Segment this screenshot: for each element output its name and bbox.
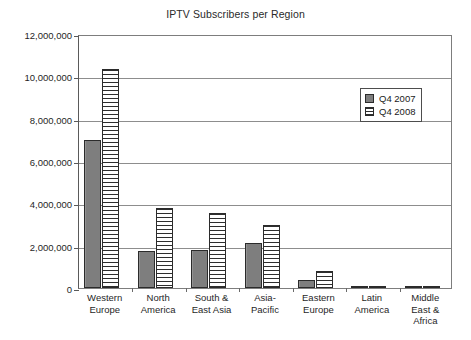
legend-label-q4-2007: Q4 2007: [379, 93, 415, 104]
bar-q4-2007: [405, 286, 422, 288]
bar-q4-2008: [102, 69, 119, 288]
x-axis-label-line: Pacific: [238, 304, 291, 316]
bar-q4-2007: [245, 243, 262, 289]
bar-q4-2007: [84, 140, 101, 288]
legend-label-q4-2008: Q4 2008: [379, 106, 415, 117]
bar-q4-2008: [369, 286, 386, 288]
x-axis-category-labels: WesternEuropeNorthAmericaSouth &East Asi…: [78, 292, 452, 338]
y-axis-tick-label: 2,000,000: [2, 241, 72, 252]
bars-layer: [79, 36, 451, 288]
x-axis-label: NorthAmerica: [131, 292, 184, 315]
x-axis-label: Asia-Pacific: [238, 292, 291, 315]
legend-item-q4-2008: Q4 2008: [365, 105, 415, 118]
bar-q4-2007: [138, 251, 155, 288]
iptv-subscribers-bar-chart: IPTV Subscribers per Region 02,000,0004,…: [0, 0, 471, 340]
y-axis-tick-label: 10,000,000: [2, 72, 72, 83]
x-axis-label-line: East &: [399, 304, 452, 316]
bar-q4-2008: [156, 208, 173, 288]
x-axis-label-line: America: [131, 304, 184, 316]
x-axis-label-line: South &: [185, 292, 238, 304]
x-axis-label: WesternEurope: [78, 292, 131, 315]
y-axis-tick: [74, 290, 79, 291]
bar-q4-2008: [423, 286, 440, 288]
x-axis-label: MiddleEast &Africa: [399, 292, 452, 327]
x-axis-label-line: Eastern: [292, 292, 345, 304]
x-axis-label-line: Asia-: [238, 292, 291, 304]
chart-legend: Q4 2007 Q4 2008: [360, 88, 422, 122]
bar-q4-2007: [351, 286, 368, 288]
x-axis-label-line: Western: [78, 292, 131, 304]
x-axis-label-line: Europe: [78, 304, 131, 316]
bar-q4-2007: [191, 250, 208, 288]
legend-swatch-solid-icon: [365, 94, 374, 103]
x-axis-label-line: Middle: [399, 292, 452, 304]
x-axis-label-line: Africa: [399, 315, 452, 327]
x-axis-label-line: East Asia: [185, 304, 238, 316]
y-axis-tick-label: 6,000,000: [2, 157, 72, 168]
legend-swatch-striped-icon: [365, 107, 374, 116]
x-axis-label-line: America: [345, 304, 398, 316]
y-axis-labels: 02,000,0004,000,0006,000,0008,000,00010,…: [0, 35, 72, 289]
x-axis-label-line: Europe: [292, 304, 345, 316]
y-axis-tick-label: 4,000,000: [2, 199, 72, 210]
chart-title: IPTV Subscribers per Region: [0, 8, 471, 20]
x-axis-label: EasternEurope: [292, 292, 345, 315]
x-axis-label-line: Latin: [345, 292, 398, 304]
x-axis-label: LatinAmerica: [345, 292, 398, 315]
plot-area: [78, 35, 452, 289]
bar-q4-2008: [263, 225, 280, 289]
y-axis-tick-label: 8,000,000: [2, 114, 72, 125]
y-axis-tick-label: 0: [2, 284, 72, 295]
bar-q4-2008: [316, 271, 333, 288]
bar-q4-2008: [209, 213, 226, 288]
x-axis-label-line: North: [131, 292, 184, 304]
legend-item-q4-2007: Q4 2007: [365, 92, 415, 105]
bar-q4-2007: [298, 280, 315, 288]
y-axis-tick-label: 12,000,000: [2, 30, 72, 41]
x-axis-label: South &East Asia: [185, 292, 238, 315]
